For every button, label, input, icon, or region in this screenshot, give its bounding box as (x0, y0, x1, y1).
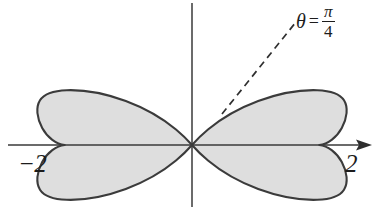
x-axis-tick-label-negative-two: −2 (18, 150, 46, 178)
fraction-denominator-four: 4 (322, 22, 335, 40)
pi-over-four-fraction: π 4 (322, 3, 335, 40)
lemniscate-figure: −2 2 θ = π 4 (0, 0, 376, 214)
x-axis-tick-label-two: 2 (345, 150, 358, 178)
equals-sign: = (309, 11, 319, 32)
fraction-numerator-pi: π (322, 3, 335, 21)
theta-symbol: θ (296, 10, 306, 33)
theta-annotation-label: θ = π 4 (296, 3, 335, 40)
